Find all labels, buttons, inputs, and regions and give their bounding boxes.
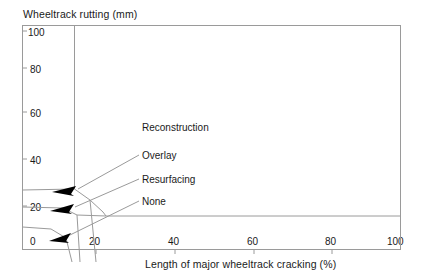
leader-line-overlay [78,155,139,189]
leader-line-none [70,201,139,235]
x-tick-marks [96,250,332,255]
chart-graphics [0,0,421,278]
arrowhead-resurfacing [50,204,74,214]
pavement-maintenance-chart: Wheeltrack rutting (mm) Length of major … [0,0,421,278]
boundary-none [23,227,73,262]
boundary-reconstruction [23,189,97,262]
leader-line-resurfacing [75,179,139,207]
boundary-link-segment [77,215,106,216]
y-tick-marks [23,31,28,206]
arrowhead-overlay [52,186,76,196]
